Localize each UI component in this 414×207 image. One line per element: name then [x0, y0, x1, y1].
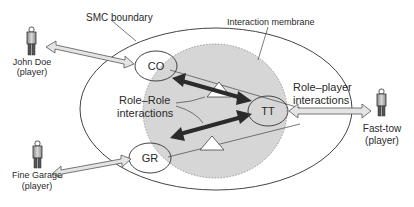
- person-icon: [27, 27, 36, 55]
- interaction-membrane-label: Interaction membrane: [227, 17, 315, 27]
- role-label-co: CO: [148, 60, 165, 72]
- player-name: Fine Garage: [12, 170, 62, 180]
- role-role-label-1: Role–Role: [119, 94, 170, 106]
- smc-diagram: CO GR TT SMC boundary Interaction membra…: [0, 0, 414, 207]
- role-node-co[interactable]: CO: [135, 51, 177, 81]
- smc-boundary-label: SMC boundary: [86, 12, 153, 23]
- role-player-label-2: interactions: [293, 94, 350, 106]
- player-sub: (player): [22, 181, 53, 191]
- role-node-gr[interactable]: GR: [129, 143, 171, 173]
- player-fine-garage[interactable]: Fine Garage (player): [12, 141, 62, 191]
- person-icon: [33, 141, 42, 168]
- person-icon: [377, 89, 386, 116]
- player-name: John Doe: [13, 57, 52, 67]
- role-node-tt[interactable]: TT: [248, 96, 288, 126]
- player-sub: (player): [365, 135, 399, 146]
- role-player-label-1: Role–player: [293, 81, 352, 93]
- role-role-label-2: interactions: [117, 107, 174, 119]
- player-john-doe[interactable]: John Doe (player): [13, 27, 52, 77]
- player-name: Fast-tow: [363, 123, 402, 134]
- smc-boundary-pointer: [111, 20, 136, 41]
- player-fast-tow[interactable]: Fast-tow (player): [363, 89, 402, 146]
- role-label-gr: GR: [142, 152, 159, 164]
- player-sub: (player): [17, 67, 48, 77]
- role-label-tt: TT: [261, 105, 275, 117]
